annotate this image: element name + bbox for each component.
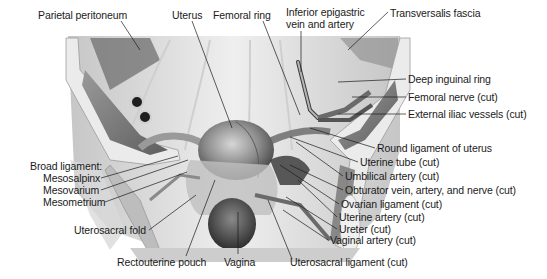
label-inferior-epigastric-line1: Inferior epigastric	[286, 6, 365, 18]
label-broad-ligament: Broad ligament:	[30, 160, 102, 172]
label-uterine-artery: Uterine artery (cut)	[339, 211, 425, 223]
label-umbilical-artery: Umbilical artery (cut)	[345, 170, 439, 182]
label-vaginal-artery: Vaginal artery (cut)	[330, 234, 416, 246]
label-uterus: Uterus	[172, 9, 202, 21]
label-parietal-peritoneum: Parietal peritoneum	[38, 9, 127, 21]
label-deep-inguinal-ring: Deep inguinal ring	[408, 73, 491, 85]
label-rectouterine-pouch: Rectouterine pouch	[117, 256, 206, 268]
label-femoral-ring: Femoral ring	[213, 9, 271, 21]
label-mesometrium: Mesometrium	[43, 196, 106, 208]
label-ovarian-ligament: Ovarian ligament (cut)	[341, 198, 442, 210]
label-round-ligament: Round ligament of uterus	[377, 142, 492, 154]
pelvis-illustration	[0, 0, 547, 279]
label-inferior-epigastric-line2: vein and artery	[286, 18, 354, 30]
label-femoral-nerve: Femoral nerve (cut)	[408, 91, 498, 103]
label-vagina: Vagina	[224, 256, 255, 268]
label-uterosacral-ligament: Uterosacral ligament (cut)	[290, 256, 408, 268]
anatomy-figure: Parietal peritoneum Uterus Femoral ring …	[0, 0, 547, 279]
label-mesovarium: Mesovarium	[43, 184, 99, 196]
label-transversalis-fascia: Transversalis fascia	[390, 7, 480, 19]
label-uterosacral-fold: Uterosacral fold	[74, 224, 146, 236]
label-obturator: Obturator vein, artery, and nerve (cut)	[345, 184, 516, 196]
label-uterine-tube: Uterine tube (cut)	[360, 156, 439, 168]
label-external-iliac-vessels: External iliac vessels (cut)	[408, 108, 527, 120]
label-mesosalpinx: Mesosalpinx	[43, 172, 100, 184]
